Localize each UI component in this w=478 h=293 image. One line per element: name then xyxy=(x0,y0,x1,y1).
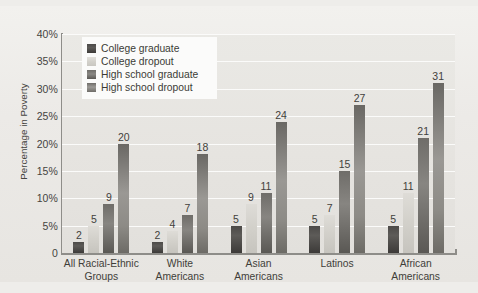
figure-background: Percentage in Poverty 05%10%15%20%25%30%… xyxy=(0,6,478,282)
x-axis-line xyxy=(61,253,456,255)
bar xyxy=(309,226,320,253)
x-category-label-line: African xyxy=(356,258,476,271)
bar xyxy=(418,138,429,253)
bar xyxy=(88,226,99,253)
bar-group: 571527 xyxy=(309,34,365,253)
x-category-label-line: Americans xyxy=(356,271,476,284)
bar xyxy=(388,226,399,253)
bar xyxy=(231,226,242,253)
legend-item-label: College dropout xyxy=(101,56,174,67)
x-category-label: AfricanAmericans xyxy=(356,258,476,283)
legend-swatch-icon xyxy=(87,57,96,66)
y-tick-label: 10% xyxy=(4,193,58,204)
y-tick-label: 0 xyxy=(4,248,58,259)
bar-value-label: 20 xyxy=(109,132,139,143)
y-tick-label: 5% xyxy=(4,221,58,232)
figure: Percentage in Poverty 05%10%15%20%25%30%… xyxy=(0,0,478,293)
legend-item: College graduate xyxy=(87,42,211,55)
plot-area: 25920247185911245715275112131 College gr… xyxy=(62,34,455,253)
bar-group: 591124 xyxy=(231,34,287,253)
legend-item: High school graduate xyxy=(87,68,211,81)
bar xyxy=(261,193,272,253)
legend-swatch-icon xyxy=(87,83,96,92)
y-tick-label: 15% xyxy=(4,166,58,177)
legend-swatch-icon xyxy=(87,70,96,79)
legend: College graduateCollege dropoutHigh scho… xyxy=(82,37,217,99)
bar xyxy=(324,215,335,253)
legend-item-label: College graduate xyxy=(101,43,179,54)
bar xyxy=(276,122,287,253)
x-axis-end-tick xyxy=(455,249,457,255)
bar xyxy=(403,193,414,253)
bar xyxy=(339,171,350,253)
bar-group: 5112131 xyxy=(388,34,444,253)
bar xyxy=(197,154,208,253)
bar xyxy=(103,204,114,253)
bar xyxy=(73,242,84,253)
bar-value-label: 27 xyxy=(345,93,375,104)
y-tick-label: 40% xyxy=(4,29,58,40)
bar xyxy=(118,144,129,254)
legend-item: High school dropout xyxy=(87,81,211,94)
y-tick-label: 20% xyxy=(4,139,58,150)
legend-item-label: High school graduate xyxy=(101,69,198,80)
bar xyxy=(167,231,178,253)
y-tick-label: 30% xyxy=(4,84,58,95)
legend-item: College dropout xyxy=(87,55,211,68)
bar-value-label: 24 xyxy=(266,110,296,121)
y-axis-tick-labels: 05%10%15%20%25%30%35%40% xyxy=(0,6,58,293)
legend-swatch-icon xyxy=(87,44,96,53)
legend-item-label: High school dropout xyxy=(101,82,193,93)
bar xyxy=(152,242,163,253)
bar xyxy=(182,215,193,253)
bar xyxy=(433,83,444,253)
bar-value-label: 18 xyxy=(187,142,217,153)
bar xyxy=(354,105,365,253)
x-category-label-line: Americans xyxy=(199,271,319,284)
y-tick-label: 35% xyxy=(4,56,58,67)
y-tick-label: 25% xyxy=(4,111,58,122)
bar-value-label: 31 xyxy=(423,71,453,82)
bar xyxy=(246,204,257,253)
